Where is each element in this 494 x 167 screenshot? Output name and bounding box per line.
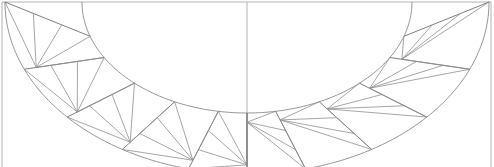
left-spoke xyxy=(90,106,131,142)
right-spoke xyxy=(370,58,390,89)
right-seam xyxy=(404,2,489,36)
left-spoke xyxy=(157,118,193,161)
left-spoke xyxy=(130,83,134,142)
block-frame xyxy=(2,2,491,167)
left-spoke xyxy=(77,83,134,112)
left-spoke xyxy=(24,69,77,112)
right-spoke xyxy=(370,65,444,88)
left-spoke xyxy=(188,165,247,167)
right-spoke xyxy=(280,102,319,120)
left-spoke xyxy=(208,131,247,165)
left-spoke xyxy=(218,111,247,165)
left-spoke xyxy=(36,25,62,68)
left-seam xyxy=(5,2,90,36)
left-spoke xyxy=(67,117,130,142)
left-spoke xyxy=(51,65,77,112)
left-spoke xyxy=(36,36,90,67)
right-spoke xyxy=(370,61,417,88)
right-spoke xyxy=(327,109,371,150)
right-spoke xyxy=(327,109,427,117)
piecing-pattern-diagram xyxy=(0,0,494,167)
left-spoke xyxy=(77,58,104,113)
left-spoke xyxy=(112,94,130,142)
right-spoke xyxy=(280,118,337,120)
right-spoke xyxy=(280,120,372,149)
left-spoke xyxy=(175,102,193,160)
right-spoke xyxy=(370,69,470,88)
left-spoke xyxy=(33,13,36,67)
right-spoke xyxy=(402,2,489,59)
left-spoke xyxy=(130,102,174,143)
left-spoke xyxy=(36,58,104,68)
right-spoke xyxy=(402,13,461,59)
